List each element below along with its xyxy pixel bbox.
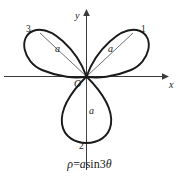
equation-caption: ρ=asin3θ	[0, 158, 179, 170]
y-axis-label: y	[75, 11, 79, 21]
radius-line-left	[40, 33, 87, 77]
caption-sin: sin	[86, 157, 100, 171]
origin-label: O	[74, 79, 81, 89]
rose-curve-figure: x y O 1 3 2 a a a ρ=asin3θ	[0, 0, 179, 181]
petal-label-right: 1	[141, 25, 146, 35]
x-axis-arrowhead	[162, 73, 169, 80]
x-axis-label: x	[169, 80, 173, 90]
petal-right	[87, 30, 149, 78]
radius-line-right	[87, 33, 134, 77]
caption-theta: θ	[106, 157, 112, 171]
y-axis-arrowhead	[83, 9, 90, 16]
origin-point	[85, 75, 89, 79]
petal-label-left: 3	[26, 25, 31, 35]
radius-label-left: a	[55, 44, 60, 54]
caption-equals: =	[73, 157, 80, 171]
radius-label-bottom: a	[89, 106, 94, 116]
petal-label-bottom: 2	[79, 142, 84, 152]
radius-label-right: a	[108, 44, 113, 54]
